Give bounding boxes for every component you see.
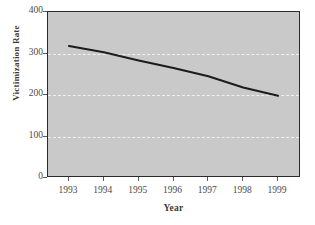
x-tick-mark-1994 — [103, 177, 104, 181]
plot-area — [47, 11, 300, 177]
x-axis-tick-labels: 1993199419951996199719981999 — [0, 186, 315, 200]
y-tick-mark-400 — [43, 11, 47, 12]
x-tick-mark-1996 — [173, 177, 174, 181]
chart-figure: Victimization Rate 0100200300400 1993199… — [0, 0, 315, 225]
x-axis-tick-marks — [0, 177, 315, 183]
x-tick-mark-1993 — [68, 177, 69, 181]
y-tick-mark-100 — [43, 136, 47, 137]
data-series-line — [48, 12, 300, 177]
x-tick-label-1999: 1999 — [257, 186, 297, 196]
y-tick-label-100: 100 — [17, 131, 43, 141]
x-tick-mark-1997 — [207, 177, 208, 181]
y-tick-mark-300 — [43, 53, 47, 54]
y-tick-label-300: 300 — [17, 48, 43, 58]
y-tick-label-400: 400 — [17, 6, 43, 16]
x-tick-mark-1999 — [277, 177, 278, 181]
x-tick-mark-1998 — [242, 177, 243, 181]
y-tick-mark-200 — [43, 94, 47, 95]
x-axis-title: Year — [47, 203, 300, 213]
y-tick-label-200: 200 — [17, 89, 43, 99]
x-tick-mark-1995 — [138, 177, 139, 181]
